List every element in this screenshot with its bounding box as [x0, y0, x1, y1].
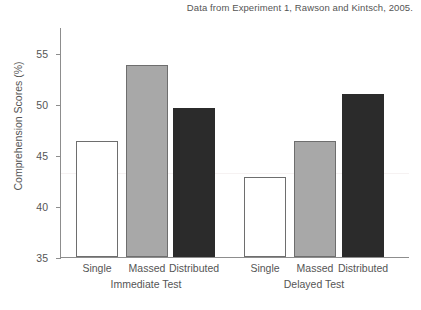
bar-immediate-test-massed	[126, 65, 168, 257]
y-tick-label-35: 35	[36, 252, 48, 264]
bar-immediate-test-single	[76, 141, 118, 257]
x-tick-label-immediate-test-distributed: Distributed	[169, 262, 219, 274]
y-tick-50: 50	[56, 105, 61, 106]
plot-area: 35 40 45 50 55 SingleMassedDistributedIm…	[60, 28, 409, 258]
y-tick-45: 45	[56, 156, 61, 157]
y-tick-label-50: 50	[36, 99, 48, 111]
y-tick-label-40: 40	[36, 201, 48, 213]
chart-caption: Data from Experiment 1, Rawson and Kints…	[0, 2, 413, 13]
x-group-label-delayed-test: Delayed Test	[284, 278, 345, 290]
x-group-label-immediate-test: Immediate Test	[110, 278, 181, 290]
x-tick-label-immediate-test-massed: Massed	[129, 262, 166, 274]
y-axis-line	[60, 28, 61, 258]
y-tick-35: 35	[56, 258, 61, 259]
y-tick-55: 55	[56, 54, 61, 55]
bar-delayed-test-distributed	[342, 94, 384, 257]
x-tick-label-delayed-test-massed: Massed	[297, 262, 334, 274]
x-tick-label-immediate-test-single: Single	[82, 262, 111, 274]
y-tick-label-55: 55	[36, 48, 48, 60]
y-axis-title: Comprehension Scores (%)	[12, 36, 24, 216]
y-tick-label-45: 45	[36, 150, 48, 162]
bar-immediate-test-distributed	[173, 108, 215, 257]
bar-delayed-test-massed	[294, 141, 336, 257]
x-axis-line	[60, 257, 409, 258]
chart-figure: Data from Experiment 1, Rawson and Kints…	[0, 0, 421, 310]
x-tick-label-delayed-test-distributed: Distributed	[338, 262, 388, 274]
x-tick-label-delayed-test-single: Single	[250, 262, 279, 274]
y-tick-40: 40	[56, 207, 61, 208]
bar-delayed-test-single	[244, 177, 286, 257]
